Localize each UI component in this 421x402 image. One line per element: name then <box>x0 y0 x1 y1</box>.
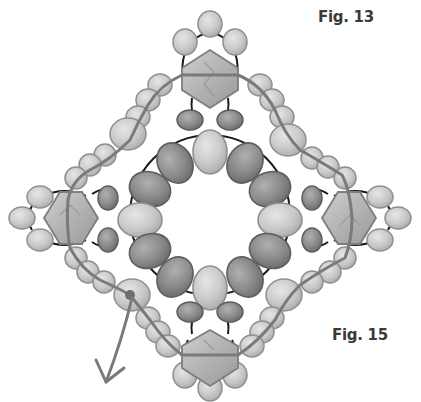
figure-label-13: Fig. 13 <box>318 8 374 26</box>
perimeter-beads <box>65 74 356 357</box>
bicone-top <box>182 50 238 108</box>
ring-bead-top <box>193 130 227 174</box>
figure-label-15: Fig. 15 <box>332 326 388 344</box>
thread-path <box>67 75 352 355</box>
thread-start-knot <box>125 290 135 300</box>
ring-bead-right <box>258 203 302 237</box>
ring-bead-left <box>118 203 162 237</box>
bicones <box>44 50 376 386</box>
